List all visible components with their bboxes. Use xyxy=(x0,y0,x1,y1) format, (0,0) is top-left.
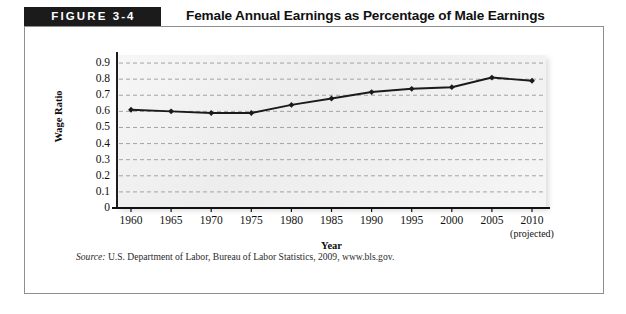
data-point-marker xyxy=(168,108,174,114)
figure-number-badge: FIGURE 3-4 xyxy=(24,7,161,26)
source-label: Source: xyxy=(76,251,105,262)
source-citation: U.S. Department of Labor, Bureau of Labo… xyxy=(108,251,394,262)
data-point-marker xyxy=(329,96,335,102)
figure-title: Female Annual Earnings as Percentage of … xyxy=(186,6,545,26)
figure-frame: Wage Ratio 0.90.80.70.60.50.40.30.20.10 … xyxy=(24,26,604,294)
data-point-marker xyxy=(369,89,375,95)
gridlines xyxy=(119,63,544,192)
data-point-marker xyxy=(409,86,415,92)
axis-lines xyxy=(112,52,550,209)
data-point-marker xyxy=(449,84,455,90)
data-point-marker xyxy=(289,102,295,108)
source-note: Source: U.S. Department of Labor, Bureau… xyxy=(76,251,394,262)
figure-header: FIGURE 3-4 Female Annual Earnings as Per… xyxy=(0,0,626,28)
